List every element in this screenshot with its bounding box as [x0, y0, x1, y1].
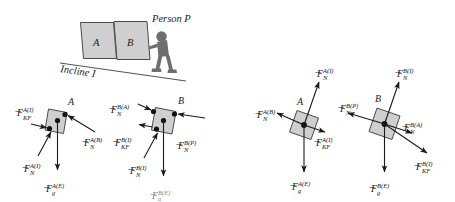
- fbd-b-label-g-b-e: F → g B(E): [149, 188, 171, 202]
- svg-text:→: →: [401, 120, 410, 130]
- svg-text:→: →: [289, 179, 298, 189]
- svg-text:A(E): A(E): [51, 182, 64, 190]
- fbd-b-rot-label-n-b-i: F → N B(I): [394, 66, 414, 82]
- free-body-diagram-block-a-rotated: A F → N A(I) F → N A(B) F → KF A(I) F: [254, 66, 334, 195]
- svg-text:N: N: [322, 74, 328, 81]
- svg-text:A(E): A(E): [297, 180, 310, 188]
- fbd-b-rot-label-n-b-p: F → N B(P): [337, 101, 359, 117]
- fbd-a-arrow-n-a-b: [68, 116, 95, 133]
- svg-text:→: →: [394, 66, 403, 76]
- fbd-b-arrow-n-b-a: [138, 104, 151, 110]
- fbd-b-label-n-b-a: F → N B(A): [108, 102, 130, 118]
- fbd-a-arrow-n-a-i: [38, 132, 51, 156]
- svg-text:→: →: [413, 159, 422, 169]
- svg-text:→: →: [127, 163, 136, 173]
- svg-text:→: →: [112, 135, 121, 145]
- svg-text:A(I): A(I): [322, 67, 333, 75]
- svg-text:N: N: [262, 115, 268, 122]
- fbd-a-label-kf-a-i: F → KF A(I): [14, 105, 34, 121]
- svg-text:N: N: [409, 128, 415, 135]
- fbd-b-label-n-b-p: F → N B(P): [175, 138, 197, 154]
- svg-text:→: →: [43, 181, 52, 191]
- fbd-b-rot-label-n-b-a: F → N B(A): [401, 120, 423, 136]
- svg-text:g: g: [377, 189, 381, 196]
- svg-text:A(B): A(B): [89, 136, 102, 144]
- fbd-b-arrow-kf-b-i: [139, 125, 153, 128]
- svg-text:N: N: [345, 109, 351, 116]
- fbd-a-label-n-a-b: F → N A(B): [81, 135, 103, 151]
- fbd-b-body-label: B: [178, 95, 184, 106]
- fbd-b-arrow-n-b-p: [178, 114, 205, 118]
- scene-block-a: A: [81, 23, 117, 59]
- fbd-b-label-kf-b-i: F → KF B(I): [112, 135, 132, 151]
- svg-text:N: N: [29, 169, 35, 176]
- scene-block-a-label: A: [92, 37, 100, 48]
- fbd-a-rot-body-label: A: [296, 96, 304, 107]
- svg-text:→: →: [149, 188, 158, 198]
- svg-text:→: →: [254, 107, 263, 117]
- incline-scene: A B Person P Incline I: [59, 13, 192, 81]
- svg-text:N: N: [402, 74, 408, 81]
- fbd-a-rot-label-kf-a-i: F → KF A(I): [313, 135, 333, 151]
- free-body-diagram-block-a-tilted: A F → KF A(I) F → N A(B) F → N A(I): [14, 96, 103, 196]
- svg-text:KF: KF: [120, 143, 130, 150]
- svg-text:A(I): A(I): [321, 136, 332, 144]
- svg-text:B(E): B(E): [158, 189, 170, 197]
- svg-text:N: N: [183, 146, 189, 153]
- figure-canvas: A B Person P Incline I A: [0, 0, 455, 201]
- svg-text:A(I): A(I): [22, 106, 33, 114]
- svg-text:B(I): B(I): [403, 67, 413, 75]
- fbd-a-label-g-a-e: F → g A(E): [43, 181, 65, 197]
- scene-block-b-label: B: [127, 37, 134, 48]
- svg-text:B(P): B(P): [346, 102, 358, 110]
- svg-text:→: →: [314, 66, 323, 76]
- fbd-a-contact-dot-b: [62, 112, 67, 117]
- fbd-a-label-n-a-i: F → N A(I): [21, 161, 41, 177]
- svg-text:→: →: [313, 135, 322, 145]
- free-body-diagram-block-b-tilted: B F → N B(A) F → KF B(I) F → N B(I): [108, 95, 206, 201]
- fbd-b-arrow-n-b-i: [144, 133, 158, 158]
- incline-label: Incline I: [59, 63, 97, 79]
- person-figure: [148, 31, 177, 73]
- svg-text:→: →: [175, 138, 184, 148]
- svg-text:→: →: [81, 135, 90, 145]
- fbd-a-contact-dot-incline: [47, 126, 52, 131]
- svg-text:KF: KF: [421, 167, 431, 174]
- svg-text:N: N: [89, 143, 95, 150]
- svg-text:B(E): B(E): [377, 182, 389, 190]
- fbd-b-contact-dot-incline: [154, 126, 159, 131]
- svg-text:→: →: [337, 101, 346, 111]
- svg-text:→: →: [368, 181, 377, 191]
- fbd-b-label-n-b-i: F → N B(I): [127, 163, 147, 179]
- svg-text:g: g: [298, 187, 302, 194]
- scene-block-b: B: [114, 22, 150, 60]
- svg-text:B(I): B(I): [121, 136, 131, 144]
- svg-text:B(P): B(P): [184, 139, 196, 147]
- svg-text:→: →: [108, 102, 117, 112]
- svg-text:g: g: [52, 189, 56, 196]
- fbd-a-arrow-kf-a-i: [31, 124, 47, 128]
- fbd-a-rot-label-n-a-b: F → N A(B): [254, 107, 276, 123]
- fbd-a-body-label: A: [67, 96, 75, 107]
- svg-text:KF: KF: [321, 143, 331, 150]
- fbd-b-contact-dot-person: [172, 111, 177, 116]
- fbd-b-rot-label-kf-b-i: F → KF B(I): [413, 159, 433, 175]
- svg-text:A(B): A(B): [262, 108, 275, 116]
- svg-text:→: →: [14, 105, 23, 115]
- physics-free-body-diagram-figure: A B Person P Incline I A: [0, 0, 455, 201]
- free-body-diagram-block-b-rotated: B F → N B(I) F → N B(P) F → N B(A) F: [337, 66, 433, 197]
- fbd-b-rot-body-label: B: [375, 93, 381, 104]
- svg-text:B(A): B(A): [410, 121, 422, 129]
- svg-text:N: N: [135, 171, 141, 178]
- fbd-a-rot-label-n-a-i: F → N A(I): [314, 66, 334, 82]
- svg-text:→: →: [21, 161, 30, 171]
- fbd-b-contact-dot-a: [151, 109, 156, 114]
- svg-text:B(A): B(A): [117, 103, 129, 111]
- fbd-a-rot-label-g-a-e: F → g A(E): [289, 179, 311, 195]
- svg-text:N: N: [116, 110, 122, 117]
- person-label: Person P: [151, 13, 191, 24]
- svg-text:B(I): B(I): [136, 164, 146, 172]
- svg-text:A(I): A(I): [29, 162, 40, 170]
- svg-text:KF: KF: [22, 114, 32, 121]
- fbd-b-rot-label-g-b-e: F → g B(E): [368, 181, 390, 197]
